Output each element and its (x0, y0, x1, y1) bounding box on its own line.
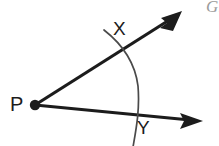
lower-ray-group (35, 105, 203, 129)
upper-ray-arrowhead-icon (160, 11, 182, 31)
corner-watermark-text: Gl (206, 0, 219, 17)
lower-ray-arrowhead-icon (180, 113, 203, 129)
upper-ray-group (35, 11, 182, 105)
point-label-y: Y (137, 118, 150, 137)
geometry-canvas (0, 0, 219, 146)
lower-ray-line (35, 105, 190, 120)
point-label-x: X (113, 19, 126, 38)
compass-arc (104, 30, 139, 146)
vertex-point-marker (30, 100, 40, 110)
vertex-label-p: P (10, 94, 23, 114)
angle-diagram-figure: P X Y Gl (0, 0, 219, 146)
